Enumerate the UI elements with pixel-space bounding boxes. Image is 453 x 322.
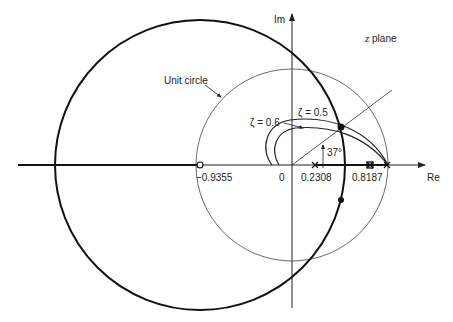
z-plane-plot: Im Re 0 z plane Unit circle ζ = 0.5 ζ = … (0, 0, 453, 322)
intersection-point-upper (338, 124, 345, 131)
intersection-point-lower (338, 197, 344, 203)
pole-2-value-label: 0.8187 (352, 172, 383, 183)
zero-marker (197, 162, 203, 168)
zeta-0.5-label: ζ = 0.5 (298, 107, 328, 119)
root-locus-diagram: Im Re 0 z plane Unit circle ζ = 0.5 ζ = … (0, 0, 453, 322)
origin-label: 0 (279, 172, 285, 183)
unit-circle-label: Unit circle (164, 75, 208, 86)
plane-title-rest: plane (369, 33, 397, 44)
zero-value-label: −0.9355 (196, 172, 233, 183)
zeta-0.5-curve (266, 119, 388, 165)
pole-1-value-label: 0.2308 (301, 172, 332, 183)
real-axis-label: Re (427, 172, 440, 183)
angle-label: 37° (327, 147, 342, 158)
unit-circle-pointer (205, 85, 221, 97)
imag-axis-label: Im (274, 14, 285, 25)
zeta-0.6-pointer (284, 123, 303, 128)
zeta-0.6-label: ζ = 0.6 (250, 117, 280, 129)
plane-title: z plane (364, 32, 397, 44)
